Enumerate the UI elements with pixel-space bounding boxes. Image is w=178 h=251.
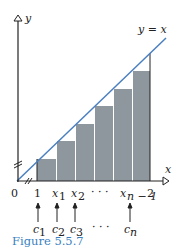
svg-text:2: 2 xyxy=(78,190,85,203)
rectangles xyxy=(37,71,150,181)
tick-2: 2 xyxy=(147,187,154,200)
origin-label: 0 xyxy=(11,187,18,200)
x-axis-arrow-icon xyxy=(163,177,169,185)
c-ellipsis: · · · xyxy=(92,221,109,234)
svg-text:x: x xyxy=(52,187,59,200)
bar-1 xyxy=(37,159,56,181)
tick-x2: x2 xyxy=(71,187,85,203)
bar-5 xyxy=(114,89,132,181)
cn-label: cn xyxy=(124,223,137,239)
bar-2 xyxy=(57,141,75,181)
sample-point-arrows xyxy=(36,203,132,222)
tick-1: 1 xyxy=(34,187,41,200)
x-axis-label: x xyxy=(165,163,172,176)
riemann-sum-diagram: y y = x x 0 1 x1 x2 · · · xn − 1 2 c1 c2… xyxy=(0,0,178,251)
figure-caption: Figure 5.5.7 xyxy=(12,234,84,248)
y-axis-arrow-icon xyxy=(14,15,22,21)
tick-x1: x1 xyxy=(52,187,66,203)
svg-text:x: x xyxy=(71,187,78,200)
svg-text:x: x xyxy=(120,187,127,200)
line-label: y = x xyxy=(137,23,167,36)
tick-ellipsis: · · · xyxy=(91,186,108,199)
svg-text:1: 1 xyxy=(59,190,66,203)
y-axis-label: y xyxy=(24,12,32,25)
bar-6 xyxy=(133,71,150,181)
bar-4 xyxy=(95,106,113,181)
bar-3 xyxy=(76,124,94,181)
svg-text:n: n xyxy=(130,226,137,239)
